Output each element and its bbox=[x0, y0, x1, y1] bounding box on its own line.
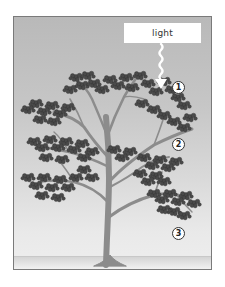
marker-2: 2 bbox=[172, 138, 185, 151]
light-label: light bbox=[124, 23, 201, 43]
marker-3: 3 bbox=[172, 227, 185, 240]
diagram-frame: light 1 2 3 bbox=[13, 16, 212, 270]
marker-1: 1 bbox=[172, 81, 185, 94]
light-label-text: light bbox=[152, 28, 173, 38]
